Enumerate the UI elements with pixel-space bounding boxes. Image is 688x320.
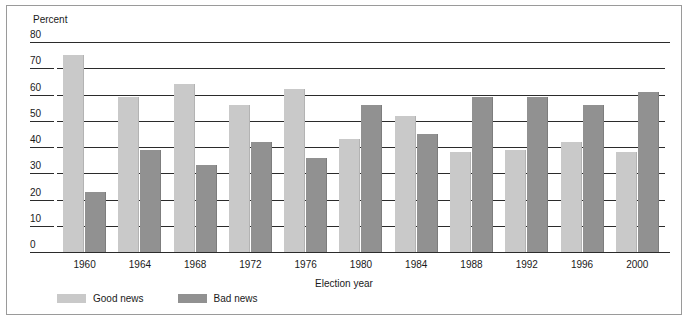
legend-item: Bad news bbox=[178, 293, 258, 304]
bar bbox=[417, 134, 438, 252]
x-tick-label: 1968 bbox=[168, 258, 223, 272]
axis-baseline bbox=[30, 252, 670, 253]
x-tick-label: 1996 bbox=[554, 258, 609, 272]
x-tick-label: 1980 bbox=[333, 258, 388, 272]
bar-group bbox=[112, 42, 167, 252]
bar bbox=[505, 150, 526, 252]
chart-figure: Percent 01020304050607080 19601964196819… bbox=[0, 0, 688, 320]
chart-legend: Good newsBad news bbox=[57, 293, 258, 304]
x-tick-label: 1984 bbox=[389, 258, 444, 272]
x-axis-tick-labels: 1960196419681972197619801984198819921996… bbox=[57, 258, 665, 272]
frame-border-top bbox=[6, 5, 682, 6]
bar-group bbox=[444, 42, 499, 252]
bar bbox=[395, 116, 416, 253]
bar bbox=[616, 152, 637, 252]
x-tick-label: 1960 bbox=[57, 258, 112, 272]
x-tick-label: 1988 bbox=[444, 258, 499, 272]
y-tick-label: 40 bbox=[30, 135, 54, 145]
bar bbox=[229, 105, 250, 252]
y-tick-rule bbox=[30, 95, 54, 96]
bar-group bbox=[610, 42, 665, 252]
legend-item: Good news bbox=[57, 293, 144, 304]
bar bbox=[118, 97, 139, 252]
bar-group bbox=[554, 42, 609, 252]
bar-group bbox=[333, 42, 388, 252]
legend-swatch bbox=[178, 294, 207, 303]
frame-border-left bbox=[6, 5, 7, 315]
y-tick-rule bbox=[30, 121, 54, 122]
y-tick-rule bbox=[30, 173, 54, 174]
frame-border-bottom bbox=[6, 314, 682, 315]
bar bbox=[284, 89, 305, 252]
bar-group bbox=[389, 42, 444, 252]
y-tick-label: 80 bbox=[30, 30, 54, 40]
y-axis-title: Percent bbox=[33, 14, 67, 26]
bar-group bbox=[57, 42, 112, 252]
bar bbox=[85, 192, 106, 252]
bar bbox=[583, 105, 604, 252]
x-axis-title: Election year bbox=[0, 278, 688, 290]
y-tick-label: 30 bbox=[30, 161, 54, 171]
y-tick-rule bbox=[30, 252, 54, 253]
bar bbox=[339, 139, 360, 252]
bar bbox=[196, 165, 217, 252]
y-tick-label: 60 bbox=[30, 83, 54, 93]
x-tick-label: 2000 bbox=[610, 258, 665, 272]
legend-label: Bad news bbox=[214, 293, 258, 304]
y-tick-rule bbox=[30, 68, 54, 69]
axis-top-rule bbox=[30, 42, 670, 43]
y-tick-rule bbox=[30, 147, 54, 148]
bar bbox=[174, 84, 195, 252]
legend-label: Good news bbox=[93, 293, 144, 304]
y-tick-label: 70 bbox=[30, 56, 54, 66]
bar bbox=[361, 105, 382, 252]
bar-group bbox=[278, 42, 333, 252]
x-tick-label: 1976 bbox=[278, 258, 333, 272]
bar bbox=[638, 92, 659, 252]
bar bbox=[561, 142, 582, 252]
y-tick-rule bbox=[30, 226, 54, 227]
bar bbox=[527, 97, 548, 252]
bar-group bbox=[223, 42, 278, 252]
y-tick-rule bbox=[30, 200, 54, 201]
bar-group bbox=[168, 42, 223, 252]
y-tick-label: 0 bbox=[30, 240, 54, 250]
y-tick-label: 10 bbox=[30, 214, 54, 224]
x-tick-label: 1972 bbox=[223, 258, 278, 272]
bar bbox=[140, 150, 161, 252]
x-tick-label: 1992 bbox=[499, 258, 554, 272]
bar bbox=[251, 142, 272, 252]
bar bbox=[472, 97, 493, 252]
y-tick-label: 50 bbox=[30, 109, 54, 119]
plot-area bbox=[57, 42, 665, 252]
bar-group bbox=[499, 42, 554, 252]
frame-border-right bbox=[681, 5, 682, 315]
y-tick-rule bbox=[30, 42, 54, 43]
legend-swatch bbox=[57, 294, 86, 303]
x-tick-label: 1964 bbox=[112, 258, 167, 272]
bar-groups bbox=[57, 42, 665, 252]
y-tick-label: 20 bbox=[30, 188, 54, 198]
bar bbox=[450, 152, 471, 252]
bar bbox=[63, 55, 84, 252]
bar bbox=[306, 158, 327, 253]
